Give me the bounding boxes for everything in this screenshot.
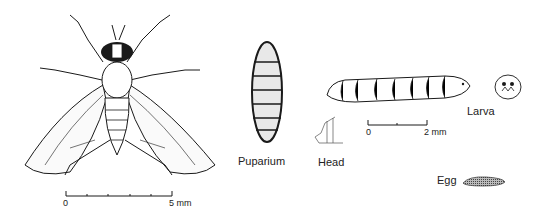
larva-illustration [325, 70, 475, 105]
larva-drawing-icon [325, 70, 475, 105]
adult-scale-start: 0 [63, 198, 68, 208]
puparium-label: Puparium [238, 155, 285, 167]
larva-scale-end: 2 mm [424, 127, 447, 137]
scale-ruler-icon [367, 119, 429, 127]
egg-illustration [461, 175, 507, 187]
larva-mouth-detail [493, 73, 523, 101]
head-label: Head [318, 156, 344, 168]
adult-scale-bar: 0 5 mm [65, 190, 175, 210]
larva-head-drawing-icon [313, 115, 353, 150]
head-illustration [313, 115, 353, 150]
adult-fly-illustration [0, 0, 230, 180]
puparium-drawing-icon [250, 40, 285, 145]
larva-scale-start: 0 [366, 127, 371, 137]
egg-label: Egg [437, 174, 457, 186]
egg-drawing-icon [461, 175, 507, 187]
puparium-illustration [250, 40, 285, 145]
larva-scale-bar: 0 2 mm [367, 119, 437, 139]
adult-scale-end: 5 mm [169, 198, 192, 208]
larva-label: Larva [467, 105, 495, 117]
larva-face-icon [493, 73, 523, 101]
fly-drawing-icon [0, 0, 230, 180]
scale-ruler-icon [65, 190, 175, 198]
